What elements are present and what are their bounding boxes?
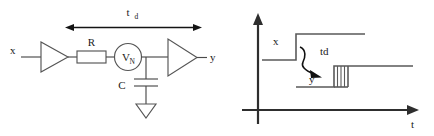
delay-dimension-label: t — [126, 6, 129, 18]
timing-input-label: x — [273, 35, 279, 47]
noise-source-label-sub: N — [130, 57, 136, 66]
timing-output-label: y — [309, 73, 315, 85]
delay-dimension-label-sub: d — [135, 12, 139, 21]
resistor-element — [77, 51, 106, 63]
figure-rc-delay-and-timing: t d x R V N C y x td y t — [0, 0, 434, 136]
circuit-schematic — [21, 24, 207, 118]
figure-canvas: t d x R V N C y x td y t — [0, 0, 434, 136]
uncertainty-band — [334, 66, 348, 87]
timing-x-axis-label: t — [411, 118, 414, 130]
circuit-output-label: y — [210, 51, 216, 63]
capacitor-label: C — [118, 79, 125, 91]
input-buffer-triangle — [41, 42, 68, 72]
output-buffer-triangle — [168, 39, 197, 76]
timing-delay-label: td — [320, 45, 329, 57]
timing-x-axis — [242, 105, 419, 115]
timing-diagram — [242, 13, 419, 124]
ground-symbol — [136, 104, 156, 118]
capacitor-element — [134, 79, 158, 86]
circuit-input-label: x — [10, 44, 16, 56]
resistor-label: R — [88, 36, 96, 48]
timing-y-axis — [253, 13, 263, 124]
figure-labels: t d x R V N C y x td y t — [10, 6, 414, 130]
delay-dimension-arrow — [65, 24, 202, 31]
